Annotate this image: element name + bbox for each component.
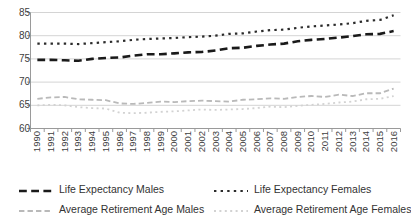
y-axis-label: 70 [4, 77, 30, 87]
legend-item[interactable]: Life Expectancy Males [18, 181, 164, 197]
x-axis-label: 2016 [389, 131, 399, 152]
x-axis-label: 1990 [32, 131, 42, 152]
x-axis-label: 2001 [183, 131, 193, 152]
x-axis-label: 2009 [293, 131, 303, 152]
x-axis-label: 2002 [197, 131, 207, 152]
x-axis-label: 1994 [87, 131, 97, 152]
x-axis-label: 2008 [279, 131, 289, 152]
x-axis-label: 1991 [46, 131, 56, 152]
x-axis-label: 1995 [101, 131, 111, 152]
y-axis-label: 65 [4, 100, 30, 110]
x-axis-label: 2006 [252, 131, 262, 152]
legend-item[interactable]: Life Expectancy Females [213, 181, 371, 197]
legend-label: Average Retirement Age Females [254, 203, 411, 215]
legend-swatch-line-icon [18, 183, 54, 195]
x-axis-label: 2015 [375, 131, 385, 152]
x-axis-label: 1992 [60, 131, 70, 152]
legend-label: Life Expectancy Females [254, 183, 371, 195]
series-line-1 [37, 15, 393, 44]
x-axis-label: 1996 [115, 131, 125, 152]
legend-swatch-line-icon [213, 203, 249, 215]
x-axis-tick-labels: 1990199119921993199419951996199719981999… [0, 131, 408, 178]
x-axis-label: 2011 [320, 131, 330, 151]
chart-legend: Life Expectancy MalesLife Expectancy Fem… [0, 179, 408, 223]
x-axis-label: 2014 [361, 131, 371, 152]
legend-swatch-line-icon [213, 183, 249, 195]
x-axis-label: 1998 [142, 131, 152, 152]
x-axis-label: 2003 [211, 131, 221, 152]
y-axis-label: 80 [4, 31, 30, 41]
x-axis-label: 1997 [128, 131, 138, 152]
x-axis-label: 2005 [238, 131, 248, 152]
x-axis-label: 1999 [156, 131, 166, 152]
x-axis-label: 2004 [224, 131, 234, 152]
legend-label: Life Expectancy Males [59, 183, 164, 195]
x-axis-label: 2013 [348, 131, 358, 152]
legend-label: Average Retirement Age Males [59, 203, 204, 215]
legend-item[interactable]: Average Retirement Age Females [213, 201, 411, 217]
x-axis-label: 2000 [169, 131, 179, 152]
y-axis-label: 85 [4, 8, 30, 18]
y-axis-label: 75 [4, 54, 30, 64]
series-line-3 [37, 96, 393, 113]
x-axis-label: 2010 [306, 131, 316, 152]
x-axis-label: 2007 [265, 131, 275, 152]
legend-item[interactable]: Average Retirement Age Males [18, 201, 204, 217]
x-axis-label: 2012 [334, 131, 344, 152]
legend-swatch-line-icon [18, 203, 54, 215]
x-axis-label: 1993 [73, 131, 83, 152]
